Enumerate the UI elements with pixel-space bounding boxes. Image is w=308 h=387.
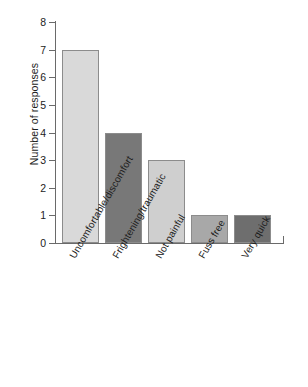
y-axis-tick-label: 5 <box>28 100 46 110</box>
y-axis-tick-label: 6 <box>28 72 46 82</box>
bar-chart: Number of responses 012345678 Uncomforta… <box>0 0 308 387</box>
y-axis-tick <box>49 22 55 23</box>
y-axis-tick-label: 7 <box>28 45 46 55</box>
x-axis-end-tick <box>283 236 284 244</box>
y-axis-tick <box>49 160 55 161</box>
y-axis-tick <box>49 243 55 244</box>
y-axis-tick-label: 8 <box>28 17 46 27</box>
y-axis-line <box>55 21 56 244</box>
y-axis-tick-label: 1 <box>28 210 46 220</box>
y-axis-tick-label: 2 <box>28 183 46 193</box>
y-axis-tick <box>49 105 55 106</box>
y-axis-tick-label: 4 <box>28 128 46 138</box>
y-axis-tick-label: 0 <box>28 238 46 248</box>
y-axis-tick <box>49 50 55 51</box>
y-axis-tick <box>49 188 55 189</box>
y-axis-tick-label: 3 <box>28 155 46 165</box>
y-axis-title: Number of responses <box>28 34 40 194</box>
y-axis-tick <box>49 77 55 78</box>
y-axis-tick <box>49 215 55 216</box>
y-axis-tick <box>49 133 55 134</box>
